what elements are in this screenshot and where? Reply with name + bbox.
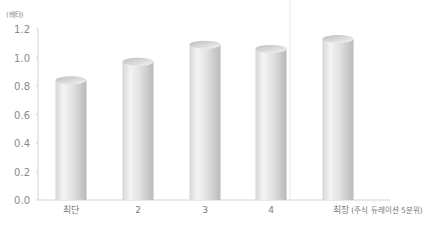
y-unit-label: (베타) bbox=[6, 10, 24, 19]
x-tick-label: 최단 bbox=[63, 205, 79, 215]
bars bbox=[56, 35, 354, 200]
x-tick-label: 2 bbox=[135, 205, 141, 215]
bar-cap bbox=[256, 45, 287, 53]
x-tick-label: 3 bbox=[202, 205, 208, 215]
x-tick-label: 최장(주식 듀레이션 5분위) bbox=[333, 205, 422, 215]
y-tick-label: 0.0 bbox=[14, 195, 30, 206]
bar-4 bbox=[256, 45, 287, 200]
y-tick-label: 0.6 bbox=[14, 110, 30, 121]
x-axis-labels: 최단234최장(주식 듀레이션 5분위) bbox=[63, 205, 423, 215]
bar-chart: (베타) 0.00.20.40.60.81.01.2 최단234최장(주식 듀레… bbox=[0, 0, 430, 227]
bar-1 bbox=[56, 76, 87, 200]
bar-cap bbox=[123, 58, 154, 66]
y-tick-label: 0.2 bbox=[14, 167, 30, 178]
y-tick-label: 1.2 bbox=[14, 24, 30, 35]
bar-3 bbox=[190, 41, 221, 200]
y-tick-label: 0.4 bbox=[14, 138, 30, 149]
bar-2 bbox=[123, 58, 154, 200]
y-tick-label: 1.0 bbox=[14, 53, 30, 64]
bar-5 bbox=[323, 35, 354, 200]
bar-cap bbox=[323, 35, 354, 43]
y-tick-label: 0.8 bbox=[14, 81, 30, 92]
bar-cap bbox=[190, 41, 221, 49]
x-tick-label: 4 bbox=[268, 205, 274, 215]
category-annotation: (주식 듀레이션 5분위) bbox=[351, 205, 422, 215]
bar-cap bbox=[56, 76, 87, 84]
y-axis-ticks: 0.00.20.40.60.81.01.2 bbox=[14, 24, 38, 206]
